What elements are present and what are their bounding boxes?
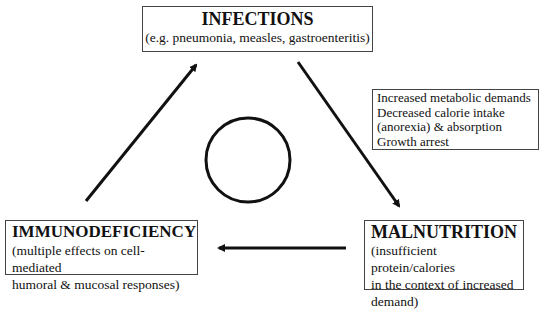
malnutrition-title: MALNUTRITION (371, 222, 517, 242)
edge-label-line: Increased metabolic demands (377, 91, 534, 106)
infections-node: INFECTIONS (e.g. pneumonia, measles, gas… (142, 6, 373, 52)
malnutrition-line: in the context of increased (371, 276, 517, 293)
immunodeficiency-title: IMMUNODEFICIENCY (12, 222, 191, 242)
infections-subtitle: (e.g. pneumonia, measles, gastroenteriti… (143, 29, 372, 46)
arrow-immunodeficiency-to-infections (86, 65, 196, 201)
immunodeficiency-line: humoral & mucosal responses) (12, 276, 191, 293)
edge-label-line: (anorexia) & absorption (377, 120, 534, 135)
edge-label-line: Growth arrest (377, 135, 534, 150)
malnutrition-node: MALNUTRITION (insufficient protein/calor… (364, 220, 524, 290)
infections-title: INFECTIONS (143, 9, 372, 29)
edge-label-line: Decreased calorie intake (377, 106, 534, 121)
malnutrition-line: (insufficient protein/calories (371, 242, 517, 276)
malnutrition-line: demand) (371, 293, 517, 310)
immunodeficiency-node: IMMUNODEFICIENCY (multiple effects on ce… (5, 220, 198, 275)
cycle-circle-icon (206, 118, 290, 202)
edge-label-box: Increased metabolic demands Decreased ca… (372, 89, 539, 150)
immunodeficiency-line: (multiple effects on cell-mediated (12, 242, 191, 276)
